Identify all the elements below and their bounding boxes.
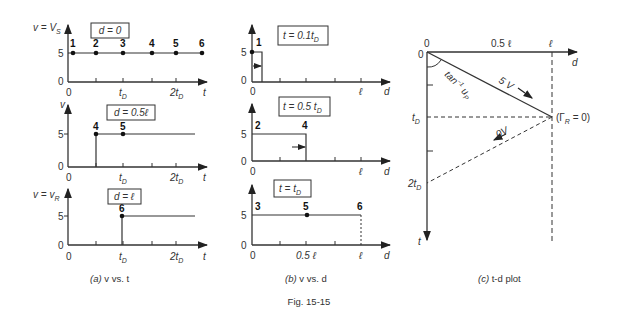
x-axis-label: t (203, 172, 207, 183)
point-label: 2 (93, 38, 99, 49)
x-tick: 0 (250, 86, 256, 97)
x-tick: 0.5 ℓ (296, 250, 317, 261)
panel-b: 1 5 0 0 ℓ d t = 0.1tD 2 4 5 0 0 ℓ d t = … (241, 25, 390, 284)
y-axis-label: v (60, 99, 66, 110)
point-label: 6 (357, 201, 363, 212)
x-tick: 2tD (169, 87, 183, 100)
t-axis-label: t (418, 236, 422, 247)
y-tick: 5 (241, 210, 247, 221)
plot-b1: 1 5 0 0 ℓ d t = 0.1tD (241, 25, 390, 97)
x-tick: 2tD (169, 251, 183, 264)
d-axis-label: d (572, 57, 578, 68)
y-tick: 0 (58, 161, 64, 172)
y-axis-label: v = vR (33, 189, 59, 202)
panel-a-caption: (a) v vs. t (90, 273, 129, 284)
condition-box: d = ℓ (114, 191, 135, 202)
d-tick: 0 (424, 38, 430, 49)
point-label: 6 (199, 38, 205, 49)
plot-b2: 2 4 5 0 0 ℓ d t = 0.5 tD (241, 97, 390, 177)
x-tick: ℓ (358, 166, 363, 177)
y-tick: 0 (241, 156, 247, 167)
x-tick: ℓ (358, 250, 363, 261)
panel-c-caption: (c) t-d plot (478, 273, 521, 284)
y-tick: 5 (241, 47, 247, 58)
t-tick: 2tD (407, 178, 421, 191)
y-tick: 5 (58, 211, 64, 222)
condition-box: d = 0 (99, 25, 122, 36)
panel-a: 1 2 3 4 5 6 v = VS 5 0 0 tD 2tD t d = 0 (33, 22, 207, 284)
y-tick: 5 (241, 129, 247, 140)
point-label: 3 (255, 201, 261, 212)
y-tick: 5 (58, 48, 64, 59)
x-axis-label: d (384, 250, 390, 261)
d-tick: 0.5 ℓ (491, 38, 512, 49)
y-tick: 0 (241, 75, 247, 86)
panel-b-caption: (b) v vs. d (285, 273, 327, 284)
figure-canvas: 1 2 3 4 5 6 v = VS 5 0 0 tD 2tD t d = 0 (0, 0, 619, 316)
y-axis-label: v = VS (33, 22, 61, 35)
condition-box: t = tD (279, 183, 301, 196)
point-label: 1 (70, 38, 76, 49)
plot-a1: 1 2 3 4 5 6 v = VS 5 0 0 tD 2tD t d = 0 (33, 22, 207, 100)
plot-a2: 4 5 v 5 0 0 tD 2tD t d = 0.5ℓ (58, 99, 207, 185)
point-label: 5 (173, 38, 179, 49)
x-axis-label: d (384, 86, 390, 97)
condition-box: d = 0.5ℓ (114, 107, 149, 118)
reflection-coefficient: (ΓR = 0) (556, 112, 590, 125)
point-label: 5 (303, 201, 309, 212)
condition-box: t = 0.5 tD (283, 101, 322, 114)
point-label: 6 (119, 203, 125, 214)
x-tick: tD (119, 172, 127, 185)
point-label: 3 (120, 38, 126, 49)
plot-b3: 3 5 6 5 0 0 0.5 ℓ ℓ d t = tD (241, 180, 390, 261)
plot-a3: 6 v = vR 5 0 0 tD 2tD t d = ℓ (33, 189, 207, 264)
y-tick: 0 (58, 240, 64, 251)
condition-box: t = 0.1tD (283, 30, 319, 43)
panel-c: 0 0.5 ℓ ℓ d 0 tD 2tD t 5 V 0V tan−1 uP (… (407, 38, 590, 284)
x-tick: 2tD (169, 172, 183, 185)
figure-caption: Fig. 15-15 (288, 296, 331, 307)
x-tick: 0 (66, 87, 72, 98)
t-tick: 0 (418, 49, 424, 60)
x-tick: 0 (250, 166, 256, 177)
d-tick: ℓ (548, 38, 553, 49)
point-label: 5 (120, 121, 126, 132)
x-tick: tD (119, 251, 127, 264)
x-axis-label: t (203, 87, 207, 98)
x-tick: 0 (250, 250, 256, 261)
point-label: 2 (255, 120, 261, 131)
x-tick: 0 (66, 172, 72, 183)
x-axis-label: d (384, 166, 390, 177)
y-tick: 5 (58, 129, 64, 140)
x-tick: ℓ (358, 86, 363, 97)
t-tick: tD (412, 112, 420, 125)
reflected-wave-label: 0V (494, 124, 511, 140)
point-label: 4 (93, 121, 99, 132)
x-tick: tD (119, 87, 127, 100)
y-tick: 0 (58, 76, 64, 87)
point-label: 4 (149, 38, 155, 49)
point-label: 1 (256, 37, 262, 48)
x-tick: 0 (66, 251, 72, 262)
point-label: 4 (302, 120, 308, 131)
y-tick: 0 (241, 240, 247, 251)
x-axis-label: t (203, 251, 207, 262)
